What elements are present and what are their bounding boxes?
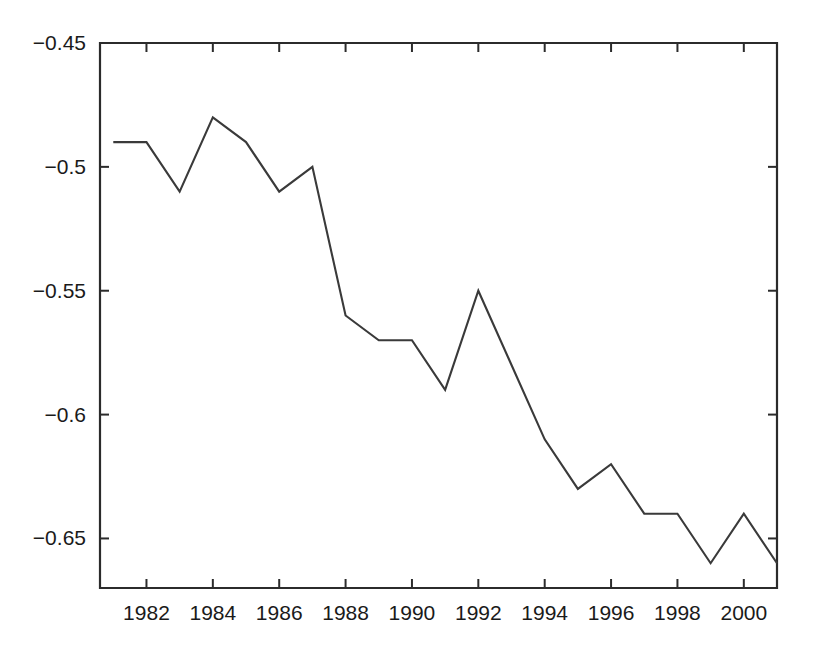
x-tick-label: 1994 <box>521 601 568 624</box>
chart-figure: −0.45−0.5−0.55−0.6−0.65 1982198419861988… <box>0 0 816 649</box>
y-tick-label: −0.55 <box>33 279 86 302</box>
chart-background <box>0 0 816 649</box>
y-tick-label: −0.65 <box>33 526 86 549</box>
y-tick-label: −0.6 <box>45 403 86 426</box>
x-tick-label: 1992 <box>455 601 502 624</box>
x-tick-label: 1990 <box>389 601 436 624</box>
x-tick-label: 1998 <box>654 601 701 624</box>
x-tick-label: 1982 <box>123 601 170 624</box>
y-tick-label: −0.45 <box>33 31 86 54</box>
x-tick-label: 1984 <box>189 601 236 624</box>
y-tick-label: −0.5 <box>45 155 86 178</box>
x-tick-label: 2000 <box>720 601 767 624</box>
x-tick-label: 1988 <box>322 601 369 624</box>
x-tick-label: 1986 <box>256 601 303 624</box>
line-chart: −0.45−0.5−0.55−0.6−0.65 1982198419861988… <box>0 0 816 649</box>
x-tick-label: 1996 <box>588 601 635 624</box>
